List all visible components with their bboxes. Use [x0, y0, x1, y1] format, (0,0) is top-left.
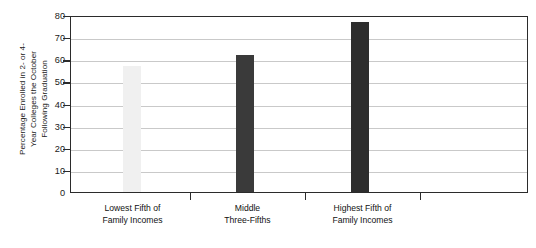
gridline-70 [71, 39, 527, 40]
x-tickmark-1 [190, 193, 191, 200]
x-tickmark-3 [420, 193, 421, 200]
bar-middle-three-fifths [236, 55, 254, 192]
category-label-highest-fifth: Highest Fifth of Family Incomes [305, 203, 420, 226]
gridline-60 [71, 61, 527, 62]
y-axis-title-line-1: Percentage Enrolled in 2- or 4- [17, 43, 28, 155]
category-label-middle-three-fifths-line-1: Middle [190, 203, 305, 215]
category-label-lowest-fifth: Lowest Fifth of Family Incomes [75, 203, 190, 226]
bar-highest-fifth [351, 22, 369, 192]
category-label-middle-three-fifths-line-2: Three-Fifths [190, 215, 305, 227]
category-label-middle-three-fifths: Middle Three-Fifths [190, 203, 305, 226]
x-tickmark-2 [305, 193, 306, 200]
category-label-highest-fifth-line-2: Family Incomes [305, 215, 420, 227]
category-label-lowest-fifth-line-2: Family Incomes [75, 215, 190, 227]
y-axis-title-line-2: Year Colleges the October [28, 51, 39, 147]
category-label-highest-fifth-line-1: Highest Fifth of [305, 203, 420, 215]
bar-chart: Percentage Enrolled in 2- or 4- Year Col… [0, 0, 536, 248]
bar-lowest-fifth [123, 66, 141, 192]
plot-area [70, 16, 528, 193]
category-label-lowest-fifth-line-1: Lowest Fifth of [75, 203, 190, 215]
y-tick-label-0: 0 [38, 188, 70, 198]
